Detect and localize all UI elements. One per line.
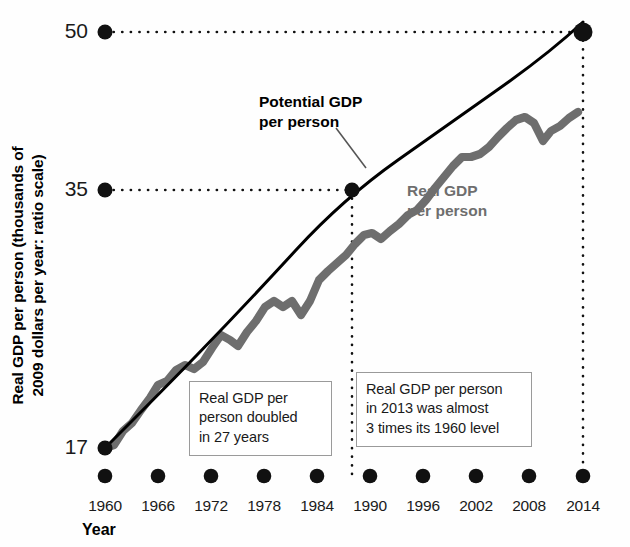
- y-tick-label-50: 50: [42, 19, 88, 43]
- series-label-potential-gdp: Potential GDP per person: [259, 92, 362, 132]
- xtick-dot-1996: [416, 469, 431, 484]
- x-tick-label-2002: 2002: [446, 497, 506, 515]
- xtick-dot-2008: [522, 469, 537, 484]
- x-tick-label-1990: 1990: [340, 497, 400, 515]
- series-label-potential-line2: per person: [259, 112, 362, 132]
- ytick-dot-17: [98, 441, 113, 456]
- x-tick-label-1996: 1996: [393, 497, 453, 515]
- x-tick-label-2014: 2014: [553, 497, 613, 515]
- y-axis-title-line1: Real GDP per person (thousands of: [8, 75, 28, 475]
- x-axis-title: Year: [82, 521, 116, 539]
- ytick-dot-35: [98, 183, 113, 198]
- y-tick-label-17: 17: [42, 435, 88, 459]
- x-tick-label-1960: 1960: [75, 497, 135, 515]
- series-label-real-line1: Real GDP: [407, 181, 487, 201]
- marker-endpoint-2013: [574, 23, 593, 42]
- x-tick-label-1978: 1978: [234, 497, 294, 515]
- annotation-doubled-line1: Real GDP per: [199, 389, 322, 408]
- xtick-dot-2014: [576, 469, 591, 484]
- marker-doubled-1987: [345, 183, 360, 198]
- potential-label-leader-line: [336, 128, 366, 168]
- xtick-dot-1978: [257, 469, 272, 484]
- x-tick-label-2008: 2008: [499, 497, 559, 515]
- x-tick-label-1984: 1984: [287, 497, 347, 515]
- xtick-dot-2002: [469, 469, 484, 484]
- annotation-doubled-line2: person doubled: [199, 408, 322, 427]
- x-tick-label-1966: 1966: [128, 497, 188, 515]
- chart-canvas: [0, 0, 630, 547]
- xtick-dot-1966: [151, 469, 166, 484]
- annotation-triple-line1: Real GDP per person: [366, 380, 522, 399]
- annotation-box-doubled: Real GDP per person doubled in 27 years: [189, 381, 332, 456]
- series-label-real-line2: per person: [407, 201, 487, 221]
- annotation-triple-line3: 3 times its 1960 level: [366, 419, 522, 438]
- ytick-dot-50: [98, 25, 113, 40]
- y-axis-title-line2: 2009 dollars per year: ratio scale): [28, 75, 48, 475]
- annotation-doubled-line3: in 27 years: [199, 428, 322, 447]
- chart-root: Real GDP per person (thousands of 2009 d…: [0, 0, 630, 547]
- y-tick-label-35: 35: [42, 177, 88, 201]
- xtick-dot-1972: [204, 469, 219, 484]
- annotation-box-triple: Real GDP per person in 2013 was almost 3…: [356, 372, 532, 447]
- x-tick-label-1972: 1972: [181, 497, 241, 515]
- xtick-dot-1990: [363, 469, 378, 484]
- annotation-triple-line2: in 2013 was almost: [366, 399, 522, 418]
- xtick-dot-1960: [98, 469, 113, 484]
- series-label-real-gdp: Real GDP per person: [407, 181, 487, 221]
- y-axis-title: Real GDP per person (thousands of 2009 d…: [8, 75, 49, 475]
- series-label-potential-line1: Potential GDP: [259, 92, 362, 112]
- xtick-dot-1984: [310, 469, 325, 484]
